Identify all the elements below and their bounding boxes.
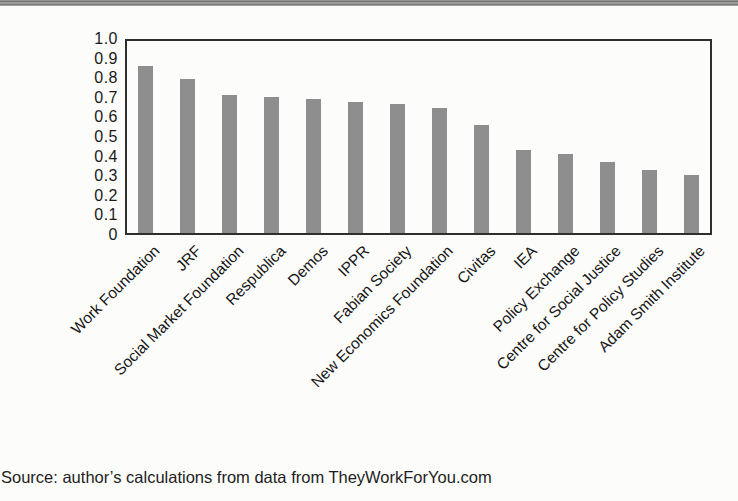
x-axis-category-label: Demos: [284, 242, 331, 289]
y-axis-tick-label: 0.7: [94, 88, 118, 108]
bar: [306, 99, 321, 233]
bar: [264, 97, 279, 233]
source-caption: Source: author’s calculations from data …: [1, 468, 492, 487]
y-axis-tick-label: 0.6: [94, 107, 118, 127]
y-axis-tick-label: 0.1: [94, 205, 118, 225]
page: 1.00.90.80.70.60.50.40.30.20.10Work Foun…: [0, 0, 738, 501]
bar: [474, 125, 489, 233]
bar-chart: 1.00.90.80.70.60.50.40.30.20.10Work Foun…: [0, 0, 738, 460]
bar: [222, 95, 237, 233]
bar: [600, 162, 615, 233]
plot-area: [125, 39, 712, 235]
y-axis-tick-label: 0.9: [94, 49, 118, 69]
y-axis-tick-label: 1.0: [94, 29, 118, 49]
bar: [348, 102, 363, 233]
bar: [684, 175, 699, 233]
bar: [180, 79, 195, 233]
bar: [390, 104, 405, 233]
y-axis-tick-label: 0.4: [94, 147, 118, 167]
bar: [138, 66, 153, 233]
x-axis-category-label: IPPR: [335, 242, 373, 280]
x-axis-category-label: Work Foundation: [68, 242, 164, 338]
bar: [432, 108, 447, 233]
y-axis-tick-label: 0: [109, 225, 118, 245]
y-axis-tick-label: 0.3: [94, 166, 118, 186]
y-axis-tick-label: 0.2: [94, 186, 118, 206]
y-axis-tick-label: 0.5: [94, 127, 118, 147]
bar: [516, 150, 531, 233]
bar: [642, 170, 657, 233]
x-axis-category-label: Civitas: [454, 242, 500, 288]
x-axis-category-label: IEA: [511, 242, 541, 272]
x-axis-category-label: JRF: [173, 242, 206, 275]
bar: [558, 154, 573, 233]
y-axis-tick-label: 0.8: [94, 68, 118, 88]
